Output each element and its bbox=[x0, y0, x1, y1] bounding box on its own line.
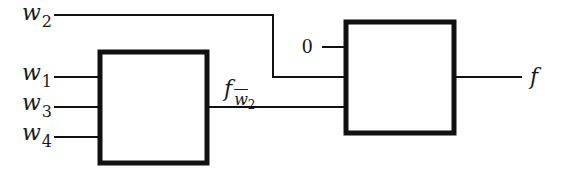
label-output-f: f bbox=[530, 66, 538, 88]
label-f-w2bar-subvar: w bbox=[234, 90, 248, 109]
label-w4-sub: 4 bbox=[42, 132, 52, 151]
block-2 bbox=[346, 22, 454, 133]
label-w1-base: w bbox=[22, 60, 41, 85]
label-w2-sub: 2 bbox=[42, 12, 52, 31]
label-f-w2bar: fw2 bbox=[224, 78, 256, 100]
block-1 bbox=[100, 52, 207, 163]
label-w4-base: w bbox=[22, 120, 41, 145]
label-w3-base: w bbox=[22, 90, 41, 115]
circuit-diagram: w2 w1 w3 w4 0 fw2 f bbox=[0, 0, 564, 184]
label-w3-sub: 3 bbox=[42, 102, 52, 121]
label-f-w2bar-sub: w2 bbox=[234, 90, 255, 109]
label-constant-zero: 0 bbox=[302, 36, 313, 57]
label-f-w2bar-subindex: 2 bbox=[248, 98, 256, 112]
label-w1-sub: 1 bbox=[42, 72, 52, 91]
diagram-wires bbox=[0, 0, 564, 184]
label-f-w2bar-base: f bbox=[224, 76, 232, 101]
label-w3: w3 bbox=[22, 92, 52, 114]
label-w2-base: w bbox=[22, 0, 41, 25]
label-w4: w4 bbox=[22, 122, 52, 144]
label-w1: w1 bbox=[22, 62, 52, 84]
label-w2: w2 bbox=[22, 2, 52, 24]
